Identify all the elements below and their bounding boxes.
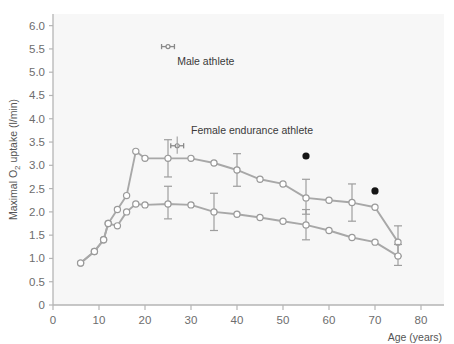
y-tick-label: 4.5: [29, 89, 45, 101]
x-tick-label: 50: [277, 314, 290, 326]
data-point-marker: [372, 204, 378, 210]
data-point-marker: [395, 253, 401, 259]
data-point-marker: [280, 181, 286, 187]
data-point-marker: [142, 202, 148, 208]
chart-figure: 00.51.01.52.02.53.03.54.04.55.05.56.0010…: [0, 0, 454, 344]
y-tick-label: 2.0: [29, 206, 45, 218]
plot-background: [53, 14, 444, 305]
data-point-marker: [372, 239, 378, 245]
chart-canvas: 00.51.01.52.02.53.03.54.04.55.05.56.0010…: [0, 0, 454, 344]
y-tick-label: 3.5: [29, 136, 45, 148]
y-tick-label: 5.0: [29, 66, 45, 78]
data-point-marker: [101, 237, 107, 243]
data-point-marker: [78, 260, 84, 266]
x-tick-label: 80: [415, 314, 428, 326]
annotation-marker-point: [166, 45, 170, 49]
y-axis-title-pre: Maximal O: [7, 170, 19, 220]
y-tick-label: 2.5: [29, 183, 45, 195]
y-tick-label: 0.5: [29, 276, 45, 288]
x-tick-label: 20: [139, 314, 152, 326]
y-tick-label: 4.0: [29, 113, 45, 125]
x-tick-label: 0: [50, 314, 56, 326]
y-tick-label: 3.0: [29, 159, 45, 171]
data-point-marker: [142, 155, 148, 161]
data-point-marker: [303, 222, 309, 228]
data-point-marker: [165, 155, 171, 161]
y-axis-title-text: Maximal O2 uptake (l/min): [7, 99, 22, 220]
y-axis-title: Maximal O2 uptake (l/min): [7, 99, 22, 220]
data-point-marker: [326, 227, 332, 233]
data-point-marker: [257, 214, 263, 220]
data-point-marker: [124, 209, 130, 215]
x-tick-label: 10: [93, 314, 106, 326]
data-point-marker: [105, 220, 111, 226]
data-point-marker: [114, 206, 120, 212]
y-tick-label: 6.0: [29, 20, 45, 32]
data-point-marker: [133, 201, 139, 207]
data-point-marker: [349, 199, 355, 205]
data-point-marker: [133, 148, 139, 154]
data-point-marker: [124, 192, 130, 198]
data-point-marker: [211, 160, 217, 166]
y-tick-label: 0: [39, 299, 45, 311]
annotation-label: Male athlete: [177, 55, 234, 67]
x-tick-label: 60: [323, 314, 336, 326]
x-tick-label: 70: [369, 314, 382, 326]
data-point-marker: [349, 234, 355, 240]
data-point-marker: [326, 197, 332, 203]
data-point-marker: [188, 155, 194, 161]
y-tick-label: 1.0: [29, 252, 45, 264]
data-point-marker: [165, 201, 171, 207]
data-point-marker: [188, 202, 194, 208]
data-point-marker: [234, 211, 240, 217]
data-point-marker: [211, 209, 217, 215]
y-axis-title-post: uptake (l/min): [7, 99, 19, 166]
annotation-label: Female endurance athlete: [191, 124, 313, 136]
scatter-point: [371, 187, 378, 194]
data-point-marker: [257, 176, 263, 182]
x-tick-label: 30: [185, 314, 198, 326]
data-point-marker: [303, 195, 309, 201]
data-point-marker: [91, 248, 97, 254]
data-point-marker: [114, 223, 120, 229]
x-tick-label: 40: [231, 314, 244, 326]
data-point-marker: [234, 167, 240, 173]
y-tick-label: 1.5: [29, 229, 45, 241]
data-point-marker: [280, 218, 286, 224]
scatter-point: [302, 152, 309, 159]
x-axis-title: Age (years): [388, 331, 442, 343]
y-tick-label: 5.5: [29, 43, 45, 55]
